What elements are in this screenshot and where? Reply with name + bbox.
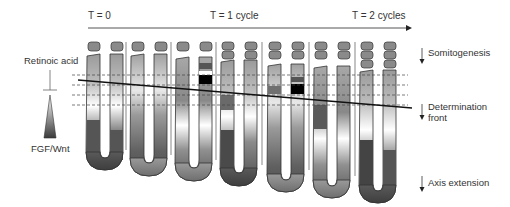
somite bbox=[269, 51, 281, 59]
somite bbox=[177, 42, 189, 51]
psm-u-6 bbox=[313, 66, 350, 198]
somitogenesis-label: Somitogenesis bbox=[428, 47, 491, 58]
label-t2: T = 2 cycles bbox=[352, 10, 405, 21]
somite bbox=[384, 42, 396, 50]
somite bbox=[361, 60, 373, 68]
somite bbox=[200, 42, 212, 51]
somite bbox=[315, 51, 327, 59]
somite bbox=[245, 42, 257, 50]
somite bbox=[155, 42, 167, 51]
axis-extension-arrow-icon bbox=[420, 187, 425, 192]
somite bbox=[338, 51, 350, 59]
somite bbox=[222, 51, 234, 59]
somite bbox=[88, 42, 100, 51]
timeline: T = 0 T = 1 cycle T = 2 cycles bbox=[88, 10, 412, 31]
psm-u-3 bbox=[175, 57, 212, 181]
label-t1: T = 1 cycle bbox=[210, 10, 259, 21]
somitogenesis-arrow-icon bbox=[420, 59, 425, 64]
fgf-wnt-gradient-triangle-icon bbox=[44, 95, 56, 138]
psm-u-4 bbox=[220, 60, 257, 186]
somite bbox=[384, 60, 396, 68]
retinoic-acid-label: Retinoic acid bbox=[24, 55, 78, 66]
determination-label-line2: front bbox=[428, 112, 447, 123]
label-t0: T = 0 bbox=[88, 10, 111, 21]
left-gradient-labels: Retinoic acid FGF/Wnt bbox=[24, 55, 78, 154]
somite bbox=[292, 42, 304, 50]
somite bbox=[245, 51, 257, 59]
somite bbox=[111, 42, 123, 51]
somite bbox=[292, 51, 304, 59]
somite bbox=[222, 42, 234, 50]
psm-u-1 bbox=[86, 54, 123, 170]
somite bbox=[315, 42, 327, 50]
psm-u-7 bbox=[359, 70, 396, 203]
axis-extension-label: Axis extension bbox=[428, 177, 489, 188]
somite bbox=[384, 51, 396, 59]
determination-label-line1: Determination bbox=[428, 101, 487, 112]
right-labels: Somitogenesis Determination front Axis e… bbox=[420, 47, 491, 192]
somite bbox=[361, 51, 373, 59]
somite bbox=[269, 42, 281, 50]
fgf-wnt-label: FGF/Wnt bbox=[31, 143, 70, 154]
psm-u-2 bbox=[130, 54, 167, 176]
determination-arrow-icon bbox=[420, 115, 425, 120]
somitogenesis-diagram: T = 0 T = 1 cycle T = 2 cycles Retinoic … bbox=[0, 0, 510, 207]
somite bbox=[361, 42, 373, 50]
psm-u-5 bbox=[267, 64, 304, 192]
timeline-arrowhead-icon bbox=[406, 25, 412, 31]
somite bbox=[132, 42, 144, 51]
somite bbox=[338, 42, 350, 50]
psm-structures bbox=[86, 54, 396, 203]
